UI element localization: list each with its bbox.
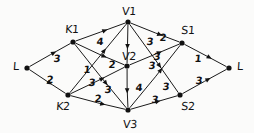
graph-edge bbox=[71, 67, 124, 93]
edge-weight-label: 2 bbox=[46, 75, 54, 85]
node-label-v3: V3 bbox=[123, 119, 138, 130]
edge-weight-label: 1 bbox=[194, 54, 202, 64]
edge-weight-label: 1 bbox=[83, 65, 91, 75]
graph-node-v2[interactable] bbox=[124, 63, 129, 68]
graph-diagram-canvas: 32423132323433313LK1K2V1V2V3S1S2L bbox=[0, 0, 254, 133]
edge-weight-label: 3 bbox=[53, 54, 61, 64]
node-label-l-src: L bbox=[13, 61, 20, 72]
graph-edge bbox=[127, 69, 128, 107]
edge-weight-label: 4 bbox=[135, 83, 143, 93]
graph-node-k1[interactable] bbox=[70, 39, 75, 44]
edge-weight-label: 3 bbox=[88, 78, 96, 88]
edge-weight-label: 2 bbox=[94, 94, 102, 104]
node-label-s1: S1 bbox=[181, 25, 195, 36]
edge-arrowhead bbox=[205, 76, 212, 83]
edge-weight-label: 4 bbox=[96, 37, 104, 47]
graph-node-v1[interactable] bbox=[125, 19, 130, 24]
edge-weight-label: 3 bbox=[195, 76, 203, 86]
node-label-v2: V2 bbox=[122, 51, 137, 62]
node-label-v1: V1 bbox=[122, 6, 137, 17]
node-label-k1: K1 bbox=[65, 24, 79, 35]
graph-edge bbox=[185, 45, 226, 67]
graph-node-s2[interactable] bbox=[177, 92, 182, 97]
edge-weight-label: 3 bbox=[146, 37, 154, 47]
edge-weight-label: 3 bbox=[153, 52, 161, 62]
graph-node-k2[interactable] bbox=[65, 92, 70, 97]
edge-arrowhead bbox=[102, 27, 108, 33]
graph-edge bbox=[131, 23, 179, 42]
node-label-s2: S2 bbox=[181, 101, 195, 112]
node-label-k2: K2 bbox=[56, 101, 70, 112]
graph-edge bbox=[70, 24, 126, 92]
graph-node-v3[interactable] bbox=[125, 107, 130, 112]
graph-node-s1[interactable] bbox=[179, 40, 184, 45]
edge-weight-label: 3 bbox=[148, 61, 156, 71]
graph-node-l-snk[interactable] bbox=[226, 65, 231, 70]
edge-weight-label: 3 bbox=[104, 85, 112, 95]
node-label-l-snk: L bbox=[237, 61, 244, 72]
edge-weight-label: 2 bbox=[108, 60, 116, 70]
graph-node-l-src[interactable] bbox=[24, 65, 29, 70]
graph-edge bbox=[30, 44, 70, 67]
edge-weight-label: 3 bbox=[151, 95, 159, 105]
edge-arrowhead bbox=[125, 44, 130, 49]
edge-weight-label: 2 bbox=[159, 33, 167, 43]
graph-svg bbox=[0, 0, 254, 133]
edge-arrowhead bbox=[125, 88, 130, 93]
edge-weight-label: 3 bbox=[162, 82, 170, 92]
edge-arrowhead bbox=[206, 54, 213, 61]
graph-edge bbox=[183, 70, 226, 94]
